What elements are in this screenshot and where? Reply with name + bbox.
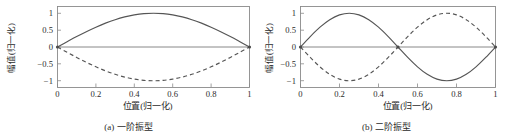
- y-tick-label: 1: [292, 8, 296, 18]
- x-tick-label: 0.4: [129, 89, 140, 99]
- y-tick-label: 0: [292, 42, 296, 52]
- y-axis-label: 幅值(归一化): [262, 3, 276, 93]
- panel-first-mode: 0 0.2 0.4 0.6 0.8 1 1 0.5 0 −0.5 −1 幅值(归: [0, 0, 257, 140]
- caption-text: 一阶振型: [117, 122, 153, 132]
- x-ticklabels-b: 0 0.2 0.4 0.6 0.8 1: [298, 89, 497, 99]
- x-tick-label: 0.2: [91, 89, 102, 99]
- plot-area-second-mode: 0 0.2 0.4 0.6 0.8 1 1 0.5 0 −0.5 −1: [258, 0, 515, 140]
- y-tick-label: 0: [49, 42, 53, 52]
- x-tick-label: 1: [247, 89, 251, 99]
- panel-caption: (a)一阶振型: [0, 120, 257, 133]
- y-tick-label: −1: [287, 76, 296, 86]
- x-tickmarks-a: [58, 84, 250, 88]
- x-axis-label: 位置(归一化): [40, 99, 255, 112]
- x-tickmarks-b: [301, 84, 496, 88]
- node-marker-middle: [396, 45, 399, 48]
- x-tick-label: 0.6: [167, 89, 178, 99]
- y-tick-label: −1: [44, 76, 53, 86]
- axes-frame-a: [58, 7, 250, 88]
- curve-first-mode-negative: [58, 47, 250, 81]
- x-tick-label: 0: [55, 89, 59, 99]
- x-axis-label: 位置(归一化): [300, 99, 515, 112]
- y-tick-label: 1: [49, 8, 53, 18]
- caption-tag: (a): [104, 122, 114, 132]
- y-tick-label: 0.5: [285, 25, 296, 35]
- node-marker-right: [494, 45, 497, 48]
- x-tick-label: 0.8: [206, 89, 217, 99]
- node-marker-left: [299, 45, 302, 48]
- x-tick-label: 0.6: [412, 89, 423, 99]
- mode-shape-figure: 0 0.2 0.4 0.6 0.8 1 1 0.5 0 −0.5 −1 幅值(归: [0, 0, 515, 140]
- panel-second-mode: 0 0.2 0.4 0.6 0.8 1 1 0.5 0 −0.5 −1: [258, 0, 515, 140]
- y-tick-label: −0.5: [37, 59, 53, 69]
- plot-area-first-mode: 0 0.2 0.4 0.6 0.8 1 1 0.5 0 −0.5 −1: [0, 0, 257, 140]
- caption-text: 二阶振型: [375, 122, 411, 132]
- x-tick-label: 0: [298, 89, 302, 99]
- x-tick-label: 0.4: [373, 89, 384, 99]
- y-axis-label: 幅值(归一化): [4, 3, 18, 93]
- x-tick-label: 0.8: [451, 89, 462, 99]
- curve-first-mode-positive: [58, 13, 250, 47]
- y-ticklabels-a: 1 0.5 0 −0.5 −1: [37, 8, 53, 85]
- y-tick-label: −0.5: [280, 59, 296, 69]
- x-tick-label: 0.2: [334, 89, 345, 99]
- x-tick-label: 1: [493, 89, 497, 99]
- node-marker-left: [56, 45, 59, 48]
- y-tick-label: 0.5: [42, 25, 53, 35]
- panel-caption: (b)二阶振型: [258, 120, 515, 133]
- node-marker-right: [248, 45, 251, 48]
- caption-tag: (b): [362, 122, 372, 132]
- y-ticklabels-b: 1 0.5 0 −0.5 −1: [280, 8, 296, 85]
- x-ticklabels-a: 0 0.2 0.4 0.6 0.8 1: [55, 89, 251, 99]
